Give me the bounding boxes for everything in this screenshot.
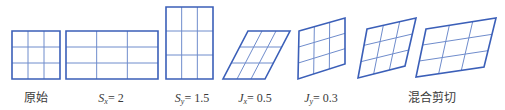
grid-line [461, 22, 472, 71]
grid-line [364, 34, 412, 45]
outline-mixed-2 [416, 18, 496, 77]
grid-scale-x [66, 31, 158, 79]
label-shear-y: Jy= 0.3 [304, 91, 338, 109]
label-scale-y: Sy= 1.5 [175, 91, 209, 109]
grid-line [439, 25, 450, 73]
grid-line [423, 34, 492, 45]
grid-mixed-2 [416, 18, 496, 77]
grid-line [419, 51, 488, 61]
grid-line [361, 50, 409, 62]
grid-line [298, 49, 345, 63]
grid-shear-x [223, 31, 290, 79]
label-scale-x: Sx= 2 [98, 91, 123, 109]
grid-shear-y [298, 18, 345, 79]
grid-mixed-1 [358, 18, 416, 78]
label-shear-x: Jx= 0.5 [238, 91, 272, 109]
grid-scale-y [166, 7, 213, 79]
outline-scale-x [66, 31, 158, 79]
grid-line [314, 27, 315, 74]
outline-original [12, 31, 60, 79]
outline-shear-y [298, 18, 345, 79]
outline-shear-x [223, 31, 290, 79]
outline-mixed-1 [358, 18, 416, 78]
grid-line [251, 31, 276, 79]
outline-scale-y [166, 7, 213, 79]
label-original: 原始 [24, 91, 48, 105]
label-mixed: 混合剪切 [408, 91, 456, 105]
grid-line [389, 22, 399, 70]
grid-original [12, 31, 60, 79]
grid-line [299, 33, 345, 47]
grid-line [237, 31, 262, 79]
grid-line [374, 25, 384, 74]
